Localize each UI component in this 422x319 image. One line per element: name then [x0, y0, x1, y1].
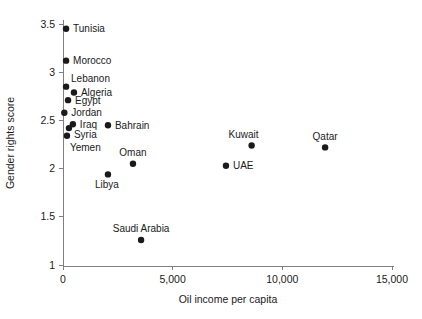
scatter-plot-figure: 11.522.533.5 05,00010,00015,000 TunisiaM… [0, 0, 422, 319]
data-point-morocco[interactable]: Morocco [63, 55, 112, 66]
y-axis-ticks: 11.522.533.5 [40, 18, 63, 271]
x-axis-title: Oil income per capita [179, 293, 278, 305]
data-point-kuwait[interactable]: Kuwait [229, 129, 259, 148]
y-tick-label: 3 [49, 66, 55, 78]
plot-canvas: 11.522.533.5 05,00010,00015,000 TunisiaM… [0, 0, 422, 319]
y-tick-label: 2.5 [40, 114, 55, 126]
point-marker[interactable] [63, 57, 69, 63]
x-axis-ticks: 05,00010,00015,000 [60, 266, 408, 285]
y-tick-label: 3.5 [40, 18, 55, 30]
point-marker[interactable] [66, 125, 72, 131]
point-marker[interactable] [65, 97, 71, 103]
point-label: Morocco [73, 55, 112, 66]
point-marker[interactable] [105, 122, 111, 128]
y-tick-label: 1 [49, 259, 55, 271]
point-marker[interactable] [322, 144, 328, 150]
x-tick-label: 15,000 [376, 273, 408, 285]
point-label: Oman [119, 147, 146, 158]
point-label: Iraq [80, 119, 97, 130]
point-label: Libya [95, 179, 119, 190]
point-label: Saudi Arabia [113, 223, 170, 234]
point-marker[interactable] [138, 237, 144, 243]
point-label: Egypt [75, 95, 101, 106]
data-point-qatar[interactable]: Qatar [313, 131, 339, 150]
point-label: Qatar [313, 131, 339, 142]
point-label: Yemen [70, 142, 101, 153]
data-point-saudi-arabia[interactable]: Saudi Arabia [113, 223, 170, 243]
data-point-libya[interactable]: Libya [95, 171, 119, 190]
point-label: Jordan [71, 107, 102, 118]
x-tick-label: 0 [60, 273, 66, 285]
data-points-layer: TunisiaMoroccoLebanonAlgeriaEgyptJordanI… [61, 23, 338, 243]
y-axis-title: Gender rights score [4, 97, 16, 189]
y-tick-label: 2 [49, 162, 55, 174]
point-marker[interactable] [248, 142, 254, 148]
data-point-iraq[interactable]: Iraq [70, 119, 97, 130]
point-marker[interactable] [61, 109, 67, 115]
data-point-uae[interactable]: UAE [223, 160, 254, 171]
data-point-oman[interactable]: Oman [119, 147, 146, 167]
point-label: Tunisia [73, 23, 105, 34]
point-marker[interactable] [63, 26, 69, 32]
point-label: Syria [74, 129, 97, 140]
point-label: Lebanon [71, 73, 110, 84]
point-label: Bahrain [115, 120, 149, 131]
x-tick-label: 10,000 [266, 273, 298, 285]
point-marker[interactable] [223, 163, 229, 169]
data-point-jordan[interactable]: Jordan [61, 107, 102, 118]
point-label: UAE [233, 160, 254, 171]
point-marker[interactable] [105, 171, 111, 177]
data-point-egypt[interactable]: Egypt [65, 95, 101, 106]
point-marker[interactable] [130, 161, 136, 167]
data-point-tunisia[interactable]: Tunisia [63, 23, 106, 34]
point-marker[interactable] [64, 133, 70, 139]
point-label: Kuwait [229, 129, 259, 140]
point-marker[interactable] [63, 83, 69, 89]
x-tick-label: 5,000 [160, 273, 186, 285]
data-point-bahrain[interactable]: Bahrain [105, 120, 150, 131]
y-tick-label: 1.5 [40, 210, 55, 222]
